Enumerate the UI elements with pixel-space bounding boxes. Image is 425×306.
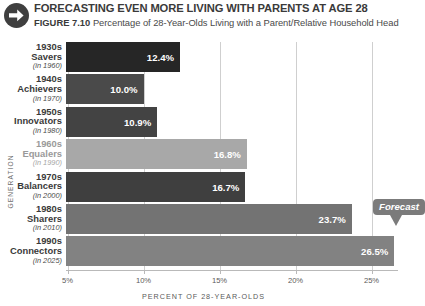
bar-value-label: 10.9% xyxy=(124,116,151,127)
arrow-right-circle-icon xyxy=(4,3,29,28)
x-axis-label: PERCENT OF 28-YEAR-OLDS xyxy=(0,292,407,301)
x-tick xyxy=(220,270,221,274)
bar-value-label: 10.0% xyxy=(110,84,137,95)
bar-value-label: 16.8% xyxy=(214,149,241,160)
x-axis-line xyxy=(66,270,398,271)
bar: 12.4% xyxy=(66,42,180,72)
forecast-callout-pointer xyxy=(390,215,402,226)
x-tick xyxy=(372,270,373,274)
bar-value-label: 26.5% xyxy=(361,246,388,257)
chart-row: 1930sSavers(in 1960)12.4% xyxy=(0,42,407,72)
x-tick xyxy=(296,270,297,274)
chart-row: 1940sAchievers(in 1970)10.0% xyxy=(0,74,407,104)
chart-row: 1990sConnectors(in 2025)26.5% xyxy=(0,236,407,266)
x-tick-label: 20% xyxy=(288,276,303,285)
bar: 16.8% xyxy=(66,139,247,169)
category-label: 1970sBalancers(in 2000) xyxy=(0,172,62,201)
x-tick xyxy=(68,270,69,274)
chart-row: 1970sBalancers(in 2000)16.7% xyxy=(0,172,407,202)
x-tick-label: 10% xyxy=(136,276,151,285)
category-name: Savers xyxy=(0,52,62,62)
category-year: (in 1970) xyxy=(0,94,62,104)
bar-chart: GENERATION 5%10%15%20%25% 1930sSavers(in… xyxy=(0,36,407,306)
category-name: Innovators xyxy=(0,116,62,126)
bar: 26.5% xyxy=(66,236,394,266)
chart-row: 1960sEqualers(in 1990)16.8% xyxy=(0,139,407,169)
bar: 23.7% xyxy=(66,204,352,234)
category-label: 1930sSavers(in 1960) xyxy=(0,42,62,71)
category-label: 1960sEqualers(in 1990) xyxy=(0,139,62,168)
bar-value-label: 23.7% xyxy=(319,214,346,225)
category-year: (in 2010) xyxy=(0,223,62,233)
forecast-callout: Forecast xyxy=(373,199,425,215)
category-label: 1940sAchievers(in 1970) xyxy=(0,74,62,103)
category-name: Connectors xyxy=(0,246,62,256)
category-name: Sharers xyxy=(0,214,62,224)
figure-caption: FIGURE 7.10 Percentage of 28-Year-Olds L… xyxy=(34,17,406,28)
bar-value-label: 16.7% xyxy=(212,181,239,192)
x-tick xyxy=(144,270,145,274)
category-year: (in 1990) xyxy=(0,158,62,168)
category-year: (in 2000) xyxy=(0,191,62,201)
category-name: Equalers xyxy=(0,149,62,159)
category-label: 1950sInnovators(in 1980) xyxy=(0,107,62,136)
bar-value-label: 12.4% xyxy=(147,52,174,63)
chart-row: 1980sSharers(in 2010)23.7% xyxy=(0,204,407,234)
bar: 10.0% xyxy=(66,74,144,104)
category-name: Achievers xyxy=(0,84,62,94)
figure-header: FORECASTING EVEN MORE LIVING WITH PARENT… xyxy=(0,0,407,36)
chart-row: 1950sInnovators(in 1980)10.9% xyxy=(0,107,407,137)
category-year: (in 2025) xyxy=(0,256,62,266)
bar: 16.7% xyxy=(66,172,245,202)
page-title: FORECASTING EVEN MORE LIVING WITH PARENT… xyxy=(34,2,404,14)
category-year: (in 1960) xyxy=(0,61,62,71)
figure-caption-text: Percentage of 28-Year-Olds Living with a… xyxy=(93,17,399,28)
x-tick-label: 25% xyxy=(364,276,379,285)
category-name: Balancers xyxy=(0,181,62,191)
category-label: 1990sConnectors(in 2025) xyxy=(0,236,62,265)
x-tick-label: 5% xyxy=(62,276,73,285)
category-year: (in 1980) xyxy=(0,126,62,136)
figure-number: FIGURE 7.10 xyxy=(34,17,90,28)
category-label: 1980sSharers(in 2010) xyxy=(0,204,62,233)
x-tick-label: 15% xyxy=(212,276,227,285)
bar: 10.9% xyxy=(66,107,157,137)
